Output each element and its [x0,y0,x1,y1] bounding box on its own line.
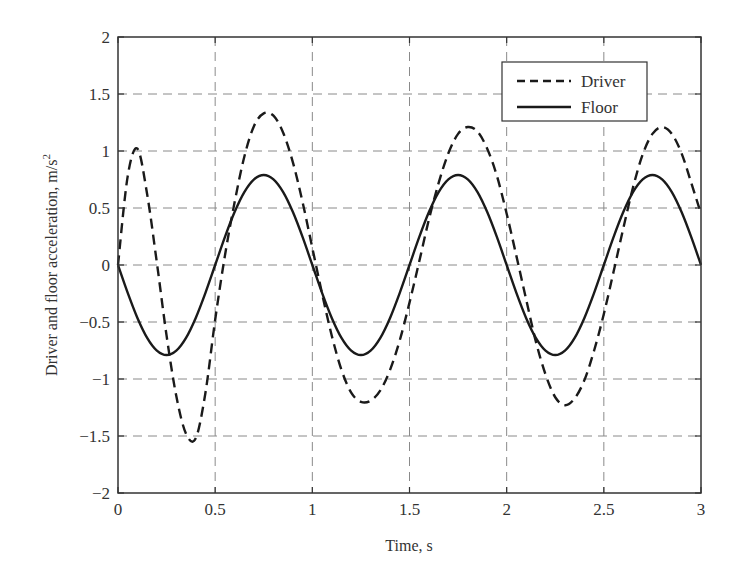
x-tick-label: 2.5 [593,500,614,519]
x-tick-labels: 00.511.522.53 [114,500,706,519]
y-tick-labels: −2−1.5−1−0.500.511.52 [79,28,110,503]
y-axis-label: Driver and floor acceleration, m/s2 [40,154,60,376]
line-chart: 00.511.522.53 −2−1.5−1−0.500.511.52 Time… [0,0,741,574]
legend: Driver Floor [502,62,647,121]
y-tick-label: 0.5 [89,199,110,218]
legend-box [502,62,647,121]
legend-floor-label: Floor [581,98,618,117]
x-tick-label: 3 [697,500,706,519]
legend-driver-label: Driver [581,72,626,91]
x-tick-label: 1.5 [399,500,420,519]
x-axis-label: Time, s [385,537,432,554]
y-axis-label-superscript: 2 [40,154,52,160]
y-tick-label: 1 [102,142,111,161]
y-tick-label: 0 [102,256,111,275]
y-tick-label: 1.5 [89,85,110,104]
x-tick-label: 0 [114,500,123,519]
x-tick-label: 2 [502,500,511,519]
y-tick-label: −0.5 [79,313,110,332]
y-tick-label: −1 [92,370,110,389]
x-tick-label: 0.5 [205,500,226,519]
x-tick-label: 1 [308,500,317,519]
y-axis-label-text: Driver and floor acceleration, m/s [43,160,60,376]
y-tick-label: −1.5 [79,427,110,446]
y-tick-label: 2 [102,28,111,47]
y-tick-label: −2 [92,484,110,503]
